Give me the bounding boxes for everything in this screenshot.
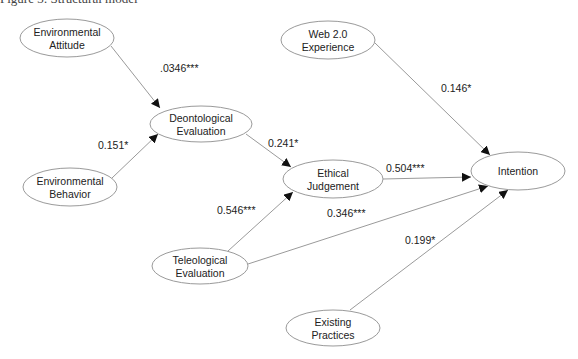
node-label: Attitude	[49, 39, 85, 51]
path-arrow-ethical-to-intention	[383, 177, 471, 179]
path-arrow-existing-to-intention	[350, 190, 508, 310]
path-coefficient-label: 0.146*	[441, 82, 471, 94]
node-deont: DeontologicalEvaluation	[150, 106, 252, 142]
node-teleo: TeleologicalEvaluation	[152, 248, 248, 284]
node-label: Existing	[315, 316, 352, 328]
node-label: Behavior	[49, 188, 91, 200]
node-label: Intention	[498, 165, 538, 177]
node-label: Judgement	[307, 180, 359, 192]
path-coefficient-label: 0.151*	[98, 139, 128, 151]
node-env_att: EnvironmentalAttitude	[20, 19, 114, 57]
structural-model-diagram: EnvironmentalAttitudeWeb 2.0ExperienceDe…	[0, 0, 578, 359]
nodes-layer: EnvironmentalAttitudeWeb 2.0ExperienceDe…	[20, 19, 565, 346]
node-existing: ExistingPractices	[286, 310, 380, 346]
path-arrow-teleo-to-intention	[248, 186, 488, 264]
path-coefficient-label: 0.504***	[386, 162, 425, 174]
path-coefficient-label: .0346***	[160, 62, 199, 74]
node-label: Environmental	[36, 175, 103, 187]
path-coefficient-label: 0.199*	[405, 234, 435, 246]
path-arrow-web20-to-intention	[375, 43, 490, 155]
node-ethical: EthicalJudgement	[283, 160, 383, 198]
node-label: Environmental	[33, 26, 100, 38]
node-label: Ethical	[317, 167, 349, 179]
node-label: Experience	[302, 41, 355, 53]
node-label: Web 2.0	[309, 28, 348, 40]
node-label: Teleological	[173, 254, 228, 266]
node-label: Practices	[311, 329, 354, 341]
node-label: Evaluation	[175, 267, 224, 279]
node-label: Evaluation	[176, 125, 225, 137]
edge-labels-layer: .0346***0.151*0.241*0.504***0.546***0.34…	[98, 62, 471, 246]
path-coefficient-label: 0.546***	[217, 204, 256, 216]
path-coefficient-label: 0.241*	[268, 137, 298, 149]
path-arrow-teleo-to-ethical	[228, 192, 293, 251]
node-web20: Web 2.0Experience	[281, 21, 375, 59]
node-env_beh: EnvironmentalBehavior	[23, 168, 117, 206]
path-coefficient-label: 0.346***	[327, 207, 366, 219]
node-intention: Intention	[471, 152, 565, 190]
node-label: Deontological	[169, 112, 233, 124]
path-arrow-env_att-to-deont	[111, 46, 160, 108]
